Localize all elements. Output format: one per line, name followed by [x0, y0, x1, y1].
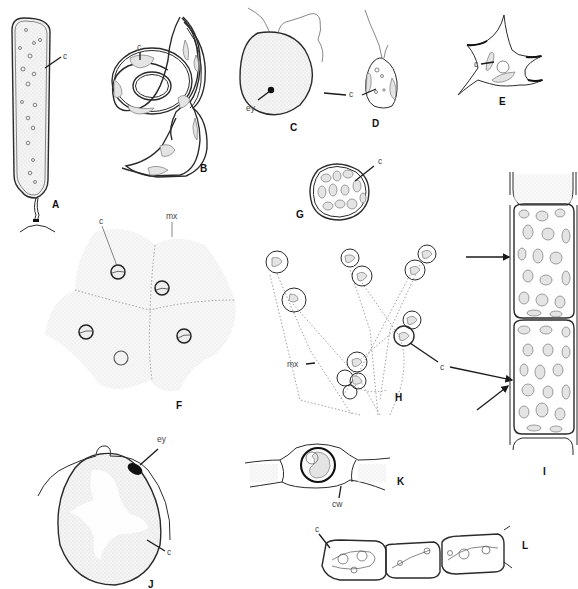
- panel-f: c mx F: [45, 211, 236, 411]
- annotation-mx: mx: [166, 211, 178, 221]
- panel-a: c A: [12, 18, 68, 232]
- annotation-cw: cw: [332, 499, 343, 509]
- panel-h: mx H: [266, 245, 438, 415]
- annotation-ey: ey: [157, 434, 167, 444]
- annotation-c: c: [378, 156, 383, 166]
- annotation-c: c: [315, 524, 320, 534]
- annotation-c: c: [63, 51, 68, 61]
- panel-label-a: A: [52, 199, 59, 210]
- annotation-c: c: [137, 42, 142, 52]
- panel-d: D: [362, 10, 397, 129]
- panel-label-l: L: [522, 540, 528, 551]
- panel-label-j: J: [148, 579, 154, 589]
- panel-e: c E: [458, 15, 543, 107]
- panel-label-g: G: [296, 209, 304, 220]
- panel-k: cw K: [245, 444, 405, 509]
- annotation-c: c: [440, 362, 445, 372]
- annotation-ey: ey: [246, 103, 256, 113]
- panel-label-h: H: [395, 392, 402, 403]
- annotation-c: c: [349, 89, 354, 99]
- annotation-c: c: [167, 547, 172, 557]
- panel-label-b: B: [200, 163, 207, 174]
- panel-j: ey c J: [38, 434, 172, 589]
- panel-i: I: [466, 172, 577, 477]
- panel-b: c B: [112, 17, 207, 177]
- panel-l: c L: [315, 524, 528, 580]
- panel-label-k: K: [397, 476, 405, 487]
- annotation-c: c: [99, 216, 104, 226]
- panel-label-d: D: [372, 118, 379, 129]
- panel-c: ey c C: [240, 8, 354, 133]
- panel-label-f: F: [176, 400, 182, 411]
- annotation-mx: mx: [287, 359, 299, 369]
- panel-label-i: I: [543, 466, 546, 477]
- panel-g: c G: [296, 156, 383, 220]
- cell-cluster: [266, 245, 436, 399]
- panel-label-c: C: [290, 122, 297, 133]
- panel-label-e: E: [499, 96, 506, 107]
- shared-annotation: c: [440, 362, 512, 410]
- algae-figure: c A c B: [0, 0, 578, 589]
